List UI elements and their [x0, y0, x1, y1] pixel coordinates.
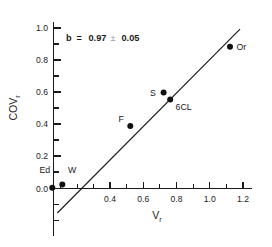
data-point-w	[59, 182, 65, 188]
x-axis-title-subscript: r	[159, 215, 162, 224]
y-tick-label-1.0: 1.0	[36, 23, 48, 33]
y-tick-label-0.6: 0.6	[36, 87, 48, 97]
data-point-or	[227, 44, 233, 50]
x-tick-label-1.2: 1.2	[237, 194, 249, 204]
x-axis-major-ticks	[110, 182, 243, 189]
slope-annotation-b: b	[66, 33, 72, 43]
x-tick-label-0.4: 0.4	[104, 194, 116, 204]
regression-line	[57, 29, 240, 213]
point-label-s: S	[150, 88, 156, 98]
data-points	[49, 44, 233, 191]
y-axis-minor-ticks	[54, 44, 59, 221]
point-label-6cl: 6CL	[176, 102, 192, 112]
point-label-f: F	[119, 114, 125, 124]
point-label-w: W	[68, 165, 77, 175]
svg-text:COVr: COVr	[7, 95, 22, 121]
slope-annotation-value: 0.97	[89, 33, 107, 43]
y-axis-title-subscript: r	[13, 95, 22, 98]
point-label-or: Or	[237, 42, 247, 52]
data-point-ed	[49, 185, 55, 191]
slope-annotation-equals: =	[77, 33, 82, 43]
x-tick-label-0.6: 0.6	[137, 194, 149, 204]
y-axis-title: COVr	[7, 95, 22, 121]
slope-annotation: b = 0.97 ± 0.05	[66, 33, 139, 43]
slope-annotation-uncertainty: 0.05	[122, 33, 140, 43]
slope-annotation-plusminus: ±	[111, 33, 116, 43]
y-tick-label-0.8: 0.8	[36, 55, 48, 65]
x-axis-title-base: V	[152, 209, 159, 221]
x-tick-label-0.8: 0.8	[171, 194, 183, 204]
svg-text:Vr: Vr	[152, 209, 162, 224]
y-tick-label-0.2: 0.2	[36, 151, 48, 161]
scatter-chart: 1.0 0.8 0.6 0.4 0.2 0.0 0.4 0.6 0.8 1.0	[0, 0, 272, 247]
x-axis-title: Vr	[152, 209, 162, 224]
data-point-f	[127, 123, 133, 129]
plot-canvas: 1.0 0.8 0.6 0.4 0.2 0.0 0.4 0.6 0.8 1.0	[0, 0, 272, 247]
point-label-ed: Ed	[40, 165, 51, 175]
data-point-s	[161, 89, 167, 95]
data-point-6cl	[167, 97, 173, 103]
y-tick-label-0.4: 0.4	[36, 119, 48, 129]
y-tick-label-0.0: 0.0	[36, 184, 48, 194]
x-tick-label-1.0: 1.0	[204, 194, 216, 204]
y-axis-title-base: COV	[7, 98, 19, 121]
